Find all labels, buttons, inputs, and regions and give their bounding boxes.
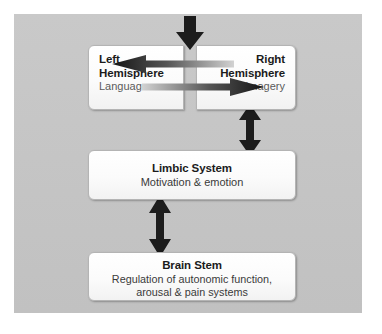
node-limbic-system-subtitle: Motivation & emotion <box>89 176 295 190</box>
node-brain-stem-title: Brain Stem <box>89 259 295 273</box>
node-limbic-system[interactable]: Limbic System Motivation & emotion <box>88 150 296 200</box>
left-to-right-hemisphere-arrow-icon <box>142 78 264 96</box>
node-brain-stem-subtitle: Regulation of autonomic function, arousa… <box>89 273 295 299</box>
right-hemisphere-limbic-double-arrow-icon <box>238 104 262 156</box>
right-to-left-hemisphere-arrow-icon <box>112 55 234 73</box>
limbic-brain-stem-double-arrow-icon <box>148 195 172 257</box>
node-limbic-system-title: Limbic System <box>89 162 295 176</box>
diagram-root: Left Hemisphere Language Right Hemispher… <box>0 0 382 334</box>
input-down-arrow-icon <box>170 16 210 50</box>
node-brain-stem[interactable]: Brain Stem Regulation of autonomic funct… <box>88 252 296 301</box>
